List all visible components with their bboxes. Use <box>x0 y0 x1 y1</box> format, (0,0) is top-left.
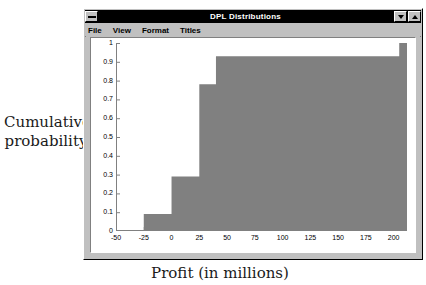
cumulative-step-area <box>116 43 407 231</box>
maximize-glyph <box>412 15 418 19</box>
plot-area <box>116 43 407 231</box>
y-tick-label: 0.8 <box>103 77 113 84</box>
x-tick-label: -50 <box>104 234 128 241</box>
x-tick-label: -25 <box>132 234 156 241</box>
y-tick-label: 0.1 <box>103 208 113 215</box>
y-axis-title: Cumulative probability <box>4 113 88 151</box>
cumulative-distribution-chart <box>116 43 407 231</box>
window-title: DPL Distributions <box>98 12 393 21</box>
x-axis-tick-labels: -50-250255075100125150175200 <box>116 234 407 246</box>
y-tick-label: 1 <box>109 39 113 46</box>
figure: Cumulative probability Profit (in millio… <box>0 0 426 285</box>
y-tick-label: 0.6 <box>103 114 113 121</box>
x-tick-label: 125 <box>298 234 322 241</box>
y-tick-label: 0.2 <box>103 189 113 196</box>
x-tick-label: 200 <box>382 234 406 241</box>
y-axis-title-line2: probability <box>4 132 88 151</box>
window-client-area: 00.10.20.30.40.50.60.70.80.91 -50-250255… <box>86 36 420 258</box>
system-menu-bar <box>88 16 96 18</box>
x-tick-label: 150 <box>326 234 350 241</box>
x-tick-label: 0 <box>160 234 184 241</box>
x-tick-label: 175 <box>354 234 378 241</box>
plot-frame: 00.10.20.30.40.50.60.70.80.91 -50-250255… <box>90 37 416 253</box>
x-tick-label: 75 <box>243 234 267 241</box>
menu-item-titles[interactable]: Titles <box>180 26 201 35</box>
dpl-distributions-window: DPL Distributions File View Format Title… <box>83 8 423 260</box>
maximize-icon[interactable] <box>408 11 421 22</box>
y-tick-label: 0 <box>109 227 113 234</box>
y-axis-tick-labels: 00.10.20.30.40.50.60.70.80.91 <box>91 43 113 231</box>
y-tick-label: 0.9 <box>103 58 113 65</box>
x-axis-title: Profit (in millions) <box>120 264 320 282</box>
menu-item-view[interactable]: View <box>113 26 131 35</box>
chart-series-group <box>116 43 407 231</box>
y-axis-title-line1: Cumulative <box>4 113 88 132</box>
menu-item-format[interactable]: Format <box>142 26 169 35</box>
x-tick-label: 100 <box>271 234 295 241</box>
system-menu-icon[interactable] <box>85 11 98 22</box>
y-tick-label: 0.5 <box>103 133 113 140</box>
minimize-icon[interactable] <box>394 11 407 22</box>
y-tick-label: 0.3 <box>103 171 113 178</box>
x-tick-label: 25 <box>187 234 211 241</box>
y-tick-label: 0.4 <box>103 152 113 159</box>
x-tick-label: 50 <box>215 234 239 241</box>
minimize-glyph <box>398 15 404 19</box>
window-titlebar: DPL Distributions <box>85 10 421 23</box>
y-tick-label: 0.7 <box>103 95 113 102</box>
menu-item-file[interactable]: File <box>88 26 102 35</box>
